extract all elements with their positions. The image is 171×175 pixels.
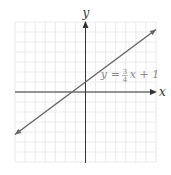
equation-denominator: 4 xyxy=(123,76,128,84)
coordinate-plane: x y y = 3 4 x + 1 xyxy=(0,0,171,175)
equation-equals: = xyxy=(111,68,120,81)
equation-lhs: y xyxy=(100,68,108,81)
y-axis-label: y xyxy=(82,6,90,20)
equation-rhs: x + 1 xyxy=(130,68,159,81)
equation-numerator: 3 xyxy=(123,68,127,76)
x-axis-label: x xyxy=(159,85,166,99)
